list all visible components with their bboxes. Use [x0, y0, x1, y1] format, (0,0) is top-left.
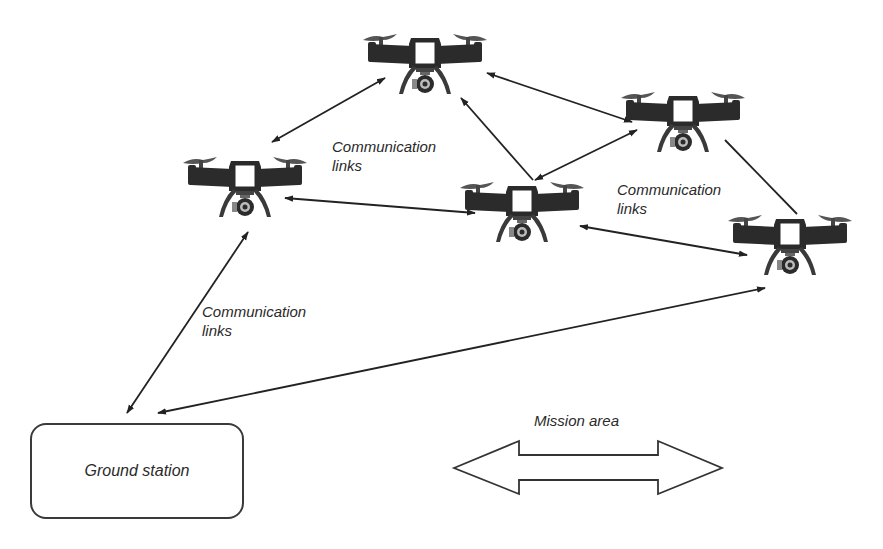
- comm-links-label-top: Communication links: [332, 137, 436, 175]
- drone-center-icon: [460, 182, 584, 242]
- comm-links-label-right: Communication links: [617, 180, 721, 218]
- link-left-center: [285, 198, 475, 213]
- drone-left-icon: [183, 157, 307, 217]
- link-left-top: [272, 78, 385, 142]
- comm-links-label-line1: Communication: [332, 137, 436, 156]
- comm-links-label-line1: Communication: [202, 302, 306, 321]
- comm-links-label-line2: links: [202, 321, 306, 340]
- link-center-upperright: [535, 130, 637, 180]
- link-top-upperright: [487, 73, 632, 122]
- drone-top-icon: [363, 34, 487, 94]
- link-center-top: [461, 98, 533, 180]
- comm-links-label-left: Communication links: [202, 302, 306, 340]
- comm-links-label-line2: links: [332, 156, 436, 175]
- drone-upper-right-icon: [621, 92, 745, 152]
- mission-area-label: Mission area: [534, 412, 619, 429]
- ground-station-box: Ground station: [30, 423, 244, 519]
- drone-far-right-icon: [728, 215, 852, 275]
- ground-station-label: Ground station: [85, 462, 190, 480]
- comm-links-label-line1: Communication: [617, 180, 721, 199]
- comm-links-label-line2: links: [617, 199, 721, 218]
- link-upperright-farright: [725, 140, 797, 214]
- link-center-farright: [580, 226, 747, 255]
- mission-area-arrow-icon: [454, 441, 722, 494]
